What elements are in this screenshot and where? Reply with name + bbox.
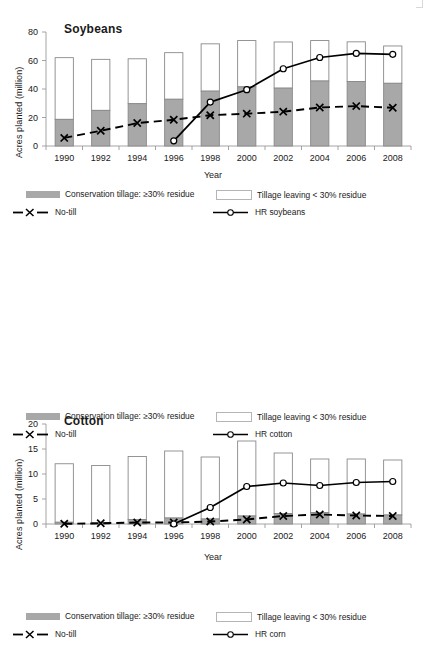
bar-tillage-leaving: [165, 451, 183, 518]
bar-conservation-tillage: [347, 81, 365, 146]
legend-label-hr-corn: HR corn: [255, 630, 286, 638]
legend-swatch-conservation-icon: [26, 613, 60, 620]
plot-area-soybeans: 0204060801990199219941996199820002002200…: [46, 32, 411, 146]
legend-item-tillage-leaving: Tillage leaving < 30% residue: [216, 190, 366, 200]
x-tick-label: 2008: [371, 531, 415, 541]
legend-label-conservation-tillage: Conservation tillage: ≥30% residue: [65, 190, 194, 198]
x-axis-title-soybeans: Year: [0, 170, 426, 180]
bar-conservation-tillage: [274, 88, 292, 146]
bar-tillage-leaving: [274, 42, 292, 88]
legend-item-hr-corn: HR corn: [212, 629, 286, 640]
marker-circle: [353, 480, 359, 486]
legend-label-hr-cotton: HR cotton: [255, 430, 292, 438]
bar-tillage-leaving: [238, 441, 256, 516]
page-header-strip: [0, 0, 426, 8]
marker-circle: [317, 55, 323, 61]
y-tick-label: 80: [12, 27, 38, 37]
legend-cotton: Conservation tillage: ≥30% residue Tilla…: [0, 412, 426, 446]
legend-label-tillage-leaving: Tillage leaving < 30% residue: [257, 413, 366, 421]
legend-label-no-till: No-till: [55, 208, 76, 216]
bar-conservation-tillage: [238, 87, 256, 146]
bar-tillage-leaving: [201, 44, 219, 91]
legend-line-circle-marker-icon: [212, 629, 250, 640]
page-corner-mark: [416, 0, 423, 8]
marker-circle: [207, 99, 213, 105]
series-no-till-soybeans: [61, 103, 397, 142]
y-tick-label: 40: [12, 84, 38, 94]
legend-item-tillage-leaving: Tillage leaving < 30% residue: [216, 612, 366, 622]
legend-item-hr-soybeans: HR soybeans: [212, 207, 305, 218]
legend-item-no-till: No-till: [12, 429, 76, 440]
legend-swatch-conservation-icon: [26, 413, 60, 420]
figure-page: Soybeans Acres planted (million) 0204060…: [0, 0, 426, 652]
y-tick-label: 0: [12, 519, 38, 529]
y-tick-label: 10: [12, 469, 38, 479]
bar-tillage-leaving: [92, 59, 110, 110]
legend-swatch-conservation-icon: [26, 191, 60, 198]
y-tick-label: 5: [12, 494, 38, 504]
bar-tillage-leaving: [347, 42, 365, 82]
bar-conservation-tillage: [92, 110, 110, 146]
legend-dashed-x-marker-icon: [12, 207, 50, 218]
marker-circle: [280, 66, 286, 72]
legend-swatch-tillage-icon: [216, 412, 252, 422]
legend-swatch-tillage-icon: [216, 612, 252, 622]
marker-circle: [317, 483, 323, 489]
legend-swatch-tillage-icon: [216, 190, 252, 200]
legend-label-no-till: No-till: [55, 430, 76, 438]
legend-label-tillage-leaving: Tillage leaving < 30% residue: [257, 191, 366, 199]
bar-tillage-leaving: [165, 53, 183, 100]
bar-tillage-leaving: [238, 41, 256, 87]
legend-item-hr-cotton: HR cotton: [212, 429, 292, 440]
legend-dashed-x-marker-icon: [12, 429, 50, 440]
legend-item-no-till: No-till: [12, 207, 76, 218]
marker-circle: [390, 479, 396, 485]
legend-corn: Conservation tillage: ≥30% residue Tilla…: [0, 612, 426, 646]
legend-item-tillage-leaving: Tillage leaving < 30% residue: [216, 412, 366, 422]
bar-tillage-leaving: [384, 460, 402, 515]
bar-tillage-leaving: [128, 457, 146, 520]
plot-svg-soybeans: [46, 32, 411, 146]
legend-line-circle-marker-icon: [212, 429, 250, 440]
chart-soybeans: Soybeans Acres planted (million) 0204060…: [0, 18, 426, 188]
x-tick-label: 2008: [371, 153, 415, 163]
bar-tillage-leaving: [92, 466, 110, 523]
legend-soybeans: Conservation tillage: ≥30% residue Tilla…: [0, 190, 426, 224]
legend-item-conservation-tillage: Conservation tillage: ≥30% residue: [26, 412, 194, 420]
bar-tillage-leaving: [347, 459, 365, 514]
legend-line-circle-marker-icon: [212, 207, 250, 218]
legend-label-no-till: No-till: [55, 630, 76, 638]
marker-circle: [280, 480, 286, 486]
x-axis-title-cotton: Year: [0, 552, 426, 562]
marker-circle: [353, 50, 359, 56]
legend-label-conservation-tillage: Conservation tillage: ≥30% residue: [65, 612, 194, 620]
bar-conservation-tillage: [55, 119, 73, 146]
legend-label-conservation-tillage: Conservation tillage: ≥30% residue: [65, 412, 194, 420]
y-tick-label: 60: [12, 56, 38, 66]
bar-tillage-leaving: [55, 464, 73, 523]
marker-circle: [171, 521, 177, 527]
bar-tillage-leaving: [128, 59, 146, 104]
legend-label-hr-soybeans: HR soybeans: [255, 208, 305, 216]
marker-circle: [244, 87, 250, 93]
marker-circle: [244, 484, 250, 490]
bar-tillage-leaving: [55, 58, 73, 120]
bar-conservation-tillage: [384, 83, 402, 146]
marker-circle: [390, 51, 396, 57]
y-tick-label: 20: [12, 113, 38, 123]
legend-label-tillage-leaving: Tillage leaving < 30% residue: [257, 613, 366, 621]
marker-circle: [171, 138, 177, 144]
legend-item-no-till: No-till: [12, 629, 76, 640]
legend-dashed-x-marker-icon: [12, 629, 50, 640]
legend-item-conservation-tillage: Conservation tillage: ≥30% residue: [26, 190, 194, 198]
y-tick-label: 0: [12, 141, 38, 151]
legend-item-conservation-tillage: Conservation tillage: ≥30% residue: [26, 612, 194, 620]
marker-circle: [207, 505, 213, 511]
bar-conservation-tillage: [311, 81, 329, 146]
